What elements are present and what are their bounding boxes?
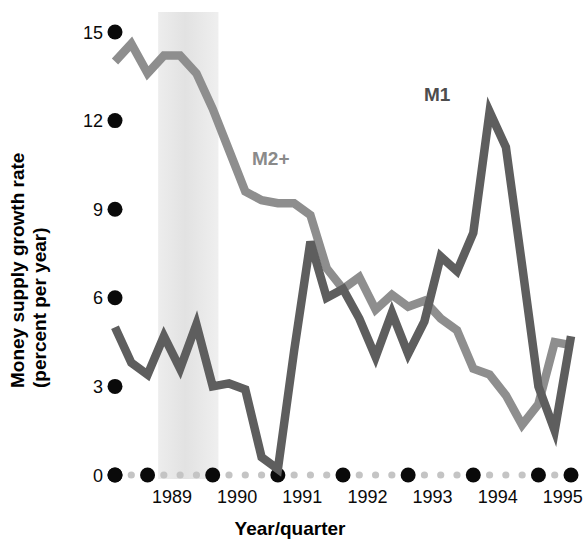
y-tick-label: 12: [83, 111, 103, 131]
y-tick-label: 3: [93, 377, 103, 397]
x-axis-quarter-dot: [291, 471, 298, 478]
x-axis-quarter-dot: [388, 471, 395, 478]
x-axis-quarter-dot: [128, 471, 135, 478]
x-axis-quarter-dot: [307, 471, 314, 478]
y-tick-dot: [108, 25, 123, 40]
y-tick-label: 6: [93, 288, 103, 308]
x-tick-label: 1989: [152, 487, 192, 507]
x-tick-label: 1990: [217, 487, 257, 507]
x-axis-quarter-dot: [372, 471, 379, 478]
x-axis-quarter-dot: [486, 471, 493, 478]
y-tick-dot: [108, 379, 123, 394]
money-supply-growth-chart: 03691215 1989199019911992199319941995 M2…: [0, 0, 586, 546]
y-axis-title-line2: (percent per year): [29, 227, 50, 388]
x-axis-quarter-dot: [453, 471, 460, 478]
y-axis-title-line1: Money supply growth rate: [7, 153, 28, 388]
x-axis-quarter-dot: [421, 471, 428, 478]
x-axis-year-dot: [466, 468, 481, 483]
y-tick-dot: [108, 202, 123, 217]
x-axis-quarter-dot: [519, 471, 526, 478]
x-axis-quarter-dot: [437, 471, 444, 478]
recession-band: [158, 12, 218, 479]
y-tick-dot: [108, 113, 123, 128]
x-tick-label: 1991: [282, 487, 322, 507]
y-tick-label: 0: [93, 466, 103, 486]
y-tick-label: 15: [83, 23, 103, 43]
x-axis-quarter-dot: [323, 471, 330, 478]
x-axis-title: Year/quarter: [235, 518, 346, 539]
x-axis-quarter-dot: [551, 471, 558, 478]
x-tick-label: 1995: [543, 487, 583, 507]
x-axis-year-dot: [336, 468, 351, 483]
x-axis-year-dot: [108, 468, 123, 483]
series-label-m1: M1: [424, 84, 451, 105]
x-axis-year-dot: [531, 468, 546, 483]
series-label-m2: M2+: [252, 148, 290, 169]
x-axis-quarter-dot: [502, 471, 509, 478]
x-axis-quarter-dot: [177, 471, 184, 478]
x-axis-quarter-dot: [258, 471, 265, 478]
x-tick-label: 1993: [413, 487, 453, 507]
x-axis-year-dot: [140, 468, 155, 483]
x-axis-quarter-dot: [160, 471, 167, 478]
x-axis-quarter-dot: [242, 471, 249, 478]
x-axis-year-dot: [401, 468, 416, 483]
x-tick-label: 1992: [347, 487, 387, 507]
chart-background: [0, 0, 586, 546]
x-axis-quarter-dot: [356, 471, 363, 478]
x-tick-label: 1994: [478, 487, 518, 507]
chart-canvas: 03691215 1989199019911992199319941995 M2…: [0, 0, 586, 546]
y-tick-dot: [108, 290, 123, 305]
y-tick-label: 9: [93, 200, 103, 220]
x-axis-quarter-dot: [193, 471, 200, 478]
x-axis-year-dot: [205, 468, 220, 483]
x-axis-year-dot: [564, 468, 579, 483]
x-axis-quarter-dot: [225, 471, 232, 478]
